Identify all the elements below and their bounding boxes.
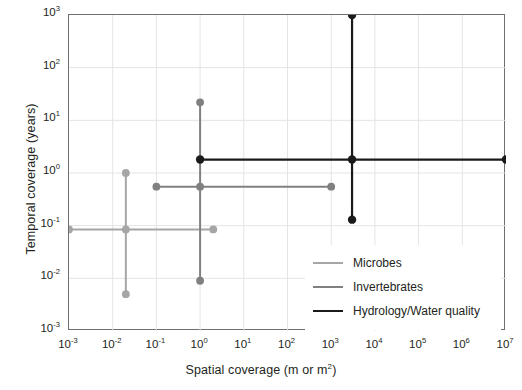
x-tick-label: 100 (179, 338, 219, 350)
x-tick-label: 106 (441, 338, 481, 350)
x-tick-label: 107 (485, 338, 522, 350)
x-axis-title: Spatial coverage (m or m2) (0, 363, 522, 377)
y-tick-label: 10-2 (26, 269, 60, 281)
x-tick-label: 105 (398, 338, 438, 350)
legend-swatch-line-icon (313, 262, 343, 264)
chart-figure: Temporal coverage (years) 10310210110010… (0, 0, 522, 390)
x-tick-label: 102 (267, 338, 307, 350)
data-point (69, 225, 73, 233)
data-point (196, 98, 204, 106)
legend-swatch-line-icon (313, 310, 343, 312)
data-point (209, 225, 217, 233)
legend-item-label: Invertebrates (353, 280, 423, 294)
chart-legend: MicrobesInvertebratesHydrology/Water qua… (305, 245, 501, 330)
series-hydrology-water-quality (196, 15, 506, 224)
data-point (327, 183, 335, 191)
data-point (196, 183, 204, 191)
data-point (348, 155, 356, 163)
x-tick-label: 104 (354, 338, 394, 350)
data-point (502, 155, 506, 163)
data-point (348, 215, 356, 223)
x-tick-label: 10-1 (135, 338, 175, 350)
data-point (348, 15, 356, 19)
legend-item-label: Hydrology/Water quality (353, 304, 480, 318)
x-tick-label: 103 (310, 338, 350, 350)
y-tick-label: 10-1 (26, 217, 60, 229)
data-point (122, 169, 130, 177)
data-point (122, 290, 130, 298)
legend-item-label: Microbes (353, 256, 402, 270)
legend-item-microbes[interactable]: Microbes (305, 251, 501, 275)
legend-item-invertebrates[interactable]: Invertebrates (305, 275, 501, 299)
y-tick-label: 102 (26, 59, 60, 71)
data-point (196, 155, 204, 163)
x-tick-label: 101 (223, 338, 263, 350)
x-tick-label: 10-3 (48, 338, 88, 350)
legend-item-hydrology-water-quality[interactable]: Hydrology/Water quality (305, 299, 501, 323)
legend-swatch-line-icon (313, 286, 343, 288)
x-tick-label: 10-2 (92, 338, 132, 350)
data-point (153, 183, 161, 191)
y-tick-label: 103 (26, 6, 60, 18)
y-tick-label: 101 (26, 111, 60, 123)
y-tick-label: 10-3 (26, 322, 60, 334)
data-point (196, 277, 204, 285)
y-tick-label: 100 (26, 164, 60, 176)
data-point (122, 225, 130, 233)
y-axis-title: Temporal coverage (years) (24, 79, 38, 279)
